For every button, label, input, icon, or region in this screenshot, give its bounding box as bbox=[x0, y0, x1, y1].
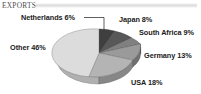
pie-label-netherlands: Netherlands 6% bbox=[21, 13, 75, 22]
leader-line-netherlands bbox=[84, 18, 104, 31]
pie-label-germany: Germany 13% bbox=[144, 51, 192, 60]
pie-label-other: Other 46% bbox=[10, 43, 46, 52]
exports-pie-chart-figure: EXPORTS bbox=[0, 0, 201, 94]
pie-label-south-africa: South Africa 9% bbox=[139, 28, 194, 37]
pie-label-japan: Japan 8% bbox=[119, 15, 152, 24]
pie-label-usa: USA 18% bbox=[131, 78, 162, 87]
pie-slice-other bbox=[52, 29, 99, 77]
